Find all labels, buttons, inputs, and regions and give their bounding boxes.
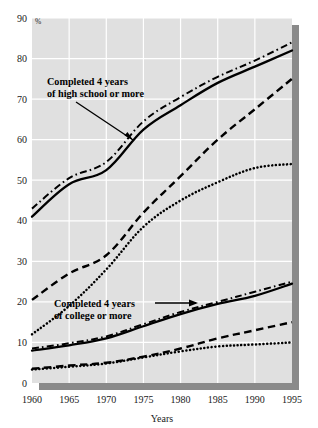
annotation-college-line1: Completed 4 years [54, 298, 135, 309]
annotation-high-school-line2: of high school or more [47, 88, 144, 99]
y-tick-label: 50 [17, 175, 27, 186]
x-tick-label: 1960 [22, 394, 42, 405]
education-attainment-line-chart: 0102030405060708090 19601965197019751980… [0, 0, 318, 428]
x-tick-label: 1985 [208, 394, 228, 405]
percent-symbol: % [35, 17, 41, 26]
x-tick-label: 1970 [96, 394, 116, 405]
y-tick-label: 80 [17, 53, 27, 64]
y-tick-label: 0 [22, 378, 27, 389]
plot-area-background [32, 18, 292, 383]
y-tick-label: 30 [17, 256, 27, 267]
plot-shadow-right [292, 25, 299, 390]
x-tick-label: 1965 [59, 394, 79, 405]
x-axis-title: Years [151, 413, 173, 424]
y-tick-label: 70 [17, 94, 27, 105]
y-tick-label: 20 [17, 296, 27, 307]
annotation-college-line2: of college or more [54, 310, 132, 321]
y-tick-label: 40 [17, 215, 27, 226]
y-tick-label: 90 [17, 13, 27, 24]
chart-figure: 0102030405060708090 19601965197019751980… [0, 0, 318, 428]
annotation-high-school-line1: Completed 4 years [47, 76, 128, 87]
plot-shadow-bottom [39, 383, 299, 390]
x-tick-label: 1980 [171, 394, 191, 405]
x-tick-label: 1990 [245, 394, 265, 405]
y-tick-label: 10 [17, 337, 27, 348]
x-tick-label: 1975 [133, 394, 153, 405]
x-tick-label: 1995 [282, 394, 302, 405]
y-tick-label: 60 [17, 134, 27, 145]
